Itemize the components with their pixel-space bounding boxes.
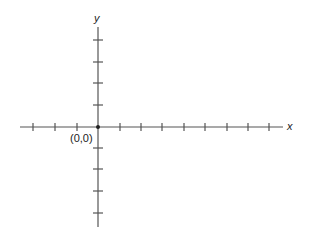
origin-point <box>96 125 100 129</box>
origin-label: (0,0) <box>70 133 93 144</box>
x-axis-label: x <box>287 121 293 132</box>
coordinate-plane <box>0 0 309 241</box>
y-axis-label: y <box>94 13 100 24</box>
